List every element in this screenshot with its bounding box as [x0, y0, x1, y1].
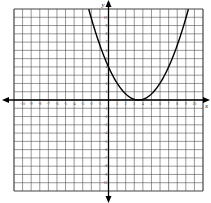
svg-text:-8: -8 — [38, 102, 41, 106]
svg-text:8: 8 — [106, 32, 108, 36]
svg-text:5: 5 — [151, 102, 153, 106]
svg-text:-6: -6 — [55, 102, 58, 106]
svg-text:-1: -1 — [98, 102, 101, 106]
svg-text:-3: -3 — [104, 123, 107, 127]
svg-text:-9: -9 — [104, 173, 107, 177]
svg-text:10: 10 — [104, 16, 108, 20]
parabola-curve — [89, 9, 189, 100]
svg-text:3: 3 — [106, 73, 108, 77]
svg-text:3: 3 — [133, 102, 135, 106]
svg-text:-5: -5 — [64, 102, 67, 106]
svg-text:-4: -4 — [104, 131, 107, 135]
svg-text:9: 9 — [185, 102, 187, 106]
svg-text:10: 10 — [193, 102, 197, 106]
svg-text:-4: -4 — [73, 102, 76, 106]
svg-text:2: 2 — [106, 82, 108, 86]
svg-text:-1: -1 — [104, 107, 107, 111]
svg-text:-3: -3 — [81, 102, 84, 106]
svg-text:-10: -10 — [103, 181, 108, 185]
svg-text:6: 6 — [159, 102, 161, 106]
svg-text:-7: -7 — [47, 102, 50, 106]
svg-text:6: 6 — [106, 49, 108, 53]
svg-text:-2: -2 — [90, 102, 93, 106]
coordinate-plane-chart: -10-9-8-7-6-5-4-3-2-11234567891010987654… — [0, 0, 211, 203]
svg-text:1: 1 — [106, 90, 108, 94]
x-axis-label: x — [204, 102, 209, 110]
svg-text:-6: -6 — [104, 148, 107, 152]
svg-text:7: 7 — [106, 40, 108, 44]
svg-text:-8: -8 — [104, 164, 107, 168]
svg-text:-9: -9 — [30, 102, 33, 106]
svg-text:1: 1 — [116, 102, 118, 106]
svg-text:-5: -5 — [104, 140, 107, 144]
svg-text:4: 4 — [142, 102, 144, 106]
svg-text:4: 4 — [106, 65, 108, 69]
svg-text:8: 8 — [176, 102, 178, 106]
svg-text:-10: -10 — [20, 102, 25, 106]
svg-text:-2: -2 — [104, 115, 107, 119]
svg-text:-7: -7 — [104, 156, 107, 160]
svg-text:9: 9 — [106, 24, 108, 28]
svg-text:2: 2 — [125, 102, 127, 106]
svg-text:7: 7 — [168, 102, 170, 106]
y-axis-label: y — [101, 1, 106, 9]
